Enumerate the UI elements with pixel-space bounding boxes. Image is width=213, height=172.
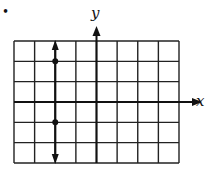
x-axis-label: x: [196, 94, 204, 109]
coordinate-plane: • y x: [0, 0, 213, 172]
graph-svg: [0, 0, 213, 172]
data-point: [52, 58, 58, 64]
data-point: [52, 119, 58, 125]
y-axis-label: y: [91, 6, 99, 21]
y-axis-arrow-icon: [93, 26, 101, 36]
